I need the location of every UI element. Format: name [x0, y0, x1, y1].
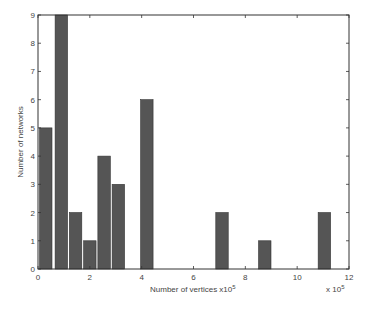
histogram-bar — [40, 128, 52, 269]
y-axis-label: Number of networks — [16, 106, 25, 178]
y-tick-label: 6 — [31, 96, 36, 105]
x-multiplier-text: x 10 — [326, 285, 342, 294]
y-tick-label: 9 — [31, 11, 36, 20]
y-tick-label: 3 — [31, 180, 36, 189]
x-axis-label-text: Number of vertices x10 — [150, 285, 233, 294]
x-tick-label: 12 — [345, 273, 354, 282]
histogram-bar — [318, 213, 330, 269]
histogram-bar — [98, 156, 110, 269]
x-tick-label: 10 — [293, 273, 302, 282]
bars-group — [40, 15, 331, 269]
histogram-chart: 0123456789 024681012 Number of networks … — [0, 0, 378, 315]
x-axis-label-exponent: 5 — [232, 284, 236, 290]
histogram-bar — [84, 241, 96, 269]
x-tick-label: 4 — [139, 273, 144, 282]
y-tick-label: 2 — [31, 209, 36, 218]
histogram-bar — [55, 15, 67, 269]
x-axis-label: Number of vertices x105 — [150, 284, 236, 294]
histogram-bar — [69, 213, 81, 269]
histogram-bar — [259, 241, 271, 269]
y-tick-label: 1 — [31, 237, 36, 246]
y-tick-label: 8 — [31, 39, 36, 48]
y-tick-label: 7 — [31, 67, 36, 76]
histogram-bar — [141, 100, 153, 269]
x-tick-label: 0 — [36, 273, 41, 282]
x-axis-multiplier: x 105 — [326, 284, 345, 294]
plot-frame — [38, 15, 349, 269]
histogram-bar — [112, 184, 124, 269]
histogram-bar — [216, 213, 228, 269]
x-multiplier-exponent: 5 — [341, 284, 345, 290]
x-tick-label: 6 — [191, 273, 196, 282]
x-tick-label: 2 — [88, 273, 93, 282]
y-tick-label: 4 — [31, 152, 36, 161]
x-tick-label: 8 — [243, 273, 248, 282]
y-tick-label: 5 — [31, 124, 36, 133]
